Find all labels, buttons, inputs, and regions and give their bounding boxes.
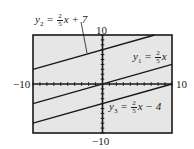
y-min-label: −10 — [92, 136, 109, 147]
y3-equation-label: y3 = 25x − 4 — [109, 100, 161, 115]
graph-plot — [0, 0, 194, 149]
y-max-label: 10 — [96, 25, 107, 36]
x-max-label: 10 — [176, 79, 187, 90]
y2-equation-label: y2 = 25x + 7 — [35, 13, 87, 28]
x-min-label: −10 — [13, 79, 30, 90]
y1-equation-label: y1 = 25x — [133, 50, 167, 65]
